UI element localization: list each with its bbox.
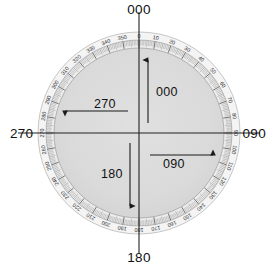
- inner-label-south: 180: [101, 167, 123, 181]
- degree-number-80: 80: [231, 113, 238, 120]
- axis-label-bottom: 180: [127, 250, 150, 265]
- inner-label-north: 000: [156, 85, 178, 99]
- axis-label-left: 270: [10, 126, 33, 141]
- protractor-svg: 0102030405060708090100110120130140150160…: [0, 0, 276, 266]
- axis-label-top: 000: [127, 2, 150, 17]
- protractor-diagram: 0102030405060708090100110120130140150160…: [0, 0, 276, 266]
- inner-label-west: 270: [94, 97, 116, 111]
- degree-number-10: 10: [152, 34, 159, 41]
- axis-label-right: 090: [243, 126, 266, 141]
- inner-label-east: 090: [163, 157, 185, 171]
